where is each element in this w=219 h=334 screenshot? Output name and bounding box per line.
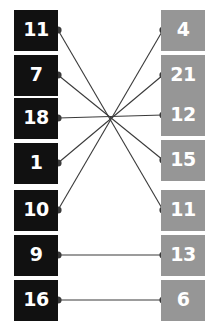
node-label: 11	[170, 200, 195, 219]
node-label: 9	[30, 245, 43, 264]
node-label: 7	[30, 65, 43, 84]
edge-10-to-4	[58, 30, 163, 210]
node-label: 11	[23, 20, 48, 39]
edge-18-to-12	[58, 115, 163, 118]
edge-1-to-21	[58, 75, 163, 163]
node-label: 1	[30, 153, 43, 172]
node-label: 12	[170, 105, 195, 124]
node-left-7[interactable]: 7	[14, 55, 58, 96]
node-left-16[interactable]: 16	[14, 280, 58, 321]
node-right-4[interactable]: 4	[161, 10, 205, 51]
node-left-10[interactable]: 10	[14, 190, 58, 231]
node-left-9[interactable]: 9	[14, 235, 58, 276]
node-right-13[interactable]: 13	[161, 235, 205, 276]
node-right-21[interactable]: 21	[161, 55, 205, 96]
node-right-15[interactable]: 15	[161, 140, 205, 181]
node-label: 13	[170, 245, 195, 264]
node-left-18[interactable]: 18	[14, 98, 58, 139]
node-label: 16	[23, 290, 48, 309]
node-label: 4	[177, 20, 190, 39]
node-label: 10	[23, 200, 48, 219]
node-left-11[interactable]: 11	[14, 10, 58, 51]
node-left-1[interactable]: 1	[14, 143, 58, 184]
node-right-11[interactable]: 11	[161, 190, 205, 231]
node-label: 21	[170, 65, 195, 84]
edge-11-to-11	[58, 30, 163, 210]
node-label: 18	[23, 108, 48, 127]
node-right-12[interactable]: 12	[161, 95, 205, 136]
node-label: 6	[177, 290, 190, 309]
node-right-6[interactable]: 6	[161, 280, 205, 321]
node-label: 15	[170, 150, 195, 169]
diagram-canvas: 11718110916 421121511136	[0, 0, 219, 334]
edge-7-to-15	[58, 75, 163, 160]
